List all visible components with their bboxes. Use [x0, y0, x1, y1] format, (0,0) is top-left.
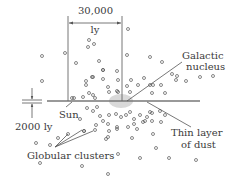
globular-cluster-dot	[171, 73, 174, 76]
arrow-up-icon	[31, 104, 33, 108]
globular-cluster-dot	[133, 118, 136, 121]
globular-cluster-dot	[98, 60, 101, 63]
globular-cluster-dot	[96, 106, 99, 109]
globular-cluster-dot	[160, 121, 163, 124]
globular-cluster-dot	[133, 123, 136, 126]
globular-cluster-dot	[95, 124, 98, 127]
globular-cluster-dot	[85, 80, 88, 83]
globular-cluster-dot	[93, 43, 96, 46]
globular-cluster-dot	[86, 107, 89, 110]
globular-pointer-line	[55, 131, 93, 147]
globular-cluster-dot	[149, 56, 152, 59]
globular-cluster-dot	[99, 115, 102, 118]
globular-cluster-dot	[41, 55, 44, 58]
globular-cluster-dot	[185, 80, 188, 83]
globular-cluster-dot	[57, 137, 60, 140]
globular-cluster-dot	[161, 61, 164, 64]
globular-cluster-dot	[151, 92, 154, 95]
globular-cluster-dot	[102, 69, 105, 72]
globular-cluster-dot	[83, 130, 86, 133]
globular-cluster-dot	[129, 91, 132, 94]
globular-cluster-dot	[82, 96, 85, 99]
globular-cluster-dot	[94, 97, 97, 100]
globular-cluster-dot	[116, 70, 119, 73]
globular-cluster-dot	[125, 114, 128, 117]
dust-label-line2: of dust	[181, 139, 216, 150]
globular-cluster-dot	[107, 86, 110, 89]
globular-cluster-dot	[117, 79, 120, 82]
globular-cluster-dot	[151, 120, 154, 123]
globular-cluster-dot	[143, 77, 146, 80]
globular-cluster-dot	[199, 76, 202, 79]
globular-cluster-dot	[155, 147, 158, 150]
globular-cluster-dot	[164, 114, 167, 117]
globular-cluster-dot	[116, 128, 119, 131]
globular-cluster-dot	[107, 123, 110, 126]
globular-cluster-dot	[195, 159, 198, 162]
globular-cluster-dot	[164, 92, 167, 95]
globular-cluster-dot	[168, 157, 171, 160]
globular-cluster-dot	[160, 84, 163, 87]
globular-cluster-dot	[212, 75, 215, 78]
globular-cluster-dot	[131, 137, 134, 140]
globular-cluster-dot	[115, 113, 118, 116]
globular-cluster-dot	[117, 153, 120, 156]
globular-cluster-dot	[105, 138, 108, 141]
globular-cluster-dot	[88, 39, 91, 42]
globular-cluster-dot	[120, 116, 123, 119]
globular-cluster-dot	[127, 126, 130, 129]
globular-cluster-dot	[87, 46, 90, 49]
globular-cluster-dot	[146, 116, 149, 119]
globular-cluster-dot	[175, 79, 178, 82]
globular-cluster-dot	[85, 84, 88, 87]
globular-cluster-dot	[127, 28, 130, 31]
globular-cluster-dot	[75, 62, 78, 65]
globular-cluster-dot	[102, 78, 105, 81]
globular-cluster-dot	[39, 162, 42, 165]
width-unit-label: ly	[88, 24, 102, 35]
galactic-nucleus-label-line2: nucleus	[186, 61, 225, 72]
sun-label: Sun	[59, 109, 79, 120]
globular-cluster-dot	[126, 54, 129, 57]
dust-pointer-line	[147, 102, 191, 127]
globular-cluster-dot	[139, 157, 142, 160]
globular-cluster-dot	[102, 120, 105, 123]
globular-cluster-dot	[88, 92, 91, 95]
arrow-left-icon	[69, 22, 73, 25]
globular-cluster-dot	[137, 84, 140, 87]
thickness-label: 2000 ly	[15, 121, 52, 132]
globular-cluster-dot	[176, 75, 179, 78]
globular-cluster-dot	[92, 94, 95, 97]
globular-cluster-dot	[139, 114, 142, 117]
globular-cluster-dot	[136, 128, 139, 131]
globular-cluster-dot	[108, 130, 111, 133]
globular-cluster-dot	[73, 97, 76, 100]
globular-cluster-dot	[126, 85, 129, 88]
globular-clusters-label: Globular clusters	[27, 150, 114, 161]
globular-cluster-dot	[92, 110, 95, 113]
arrow-right-icon	[117, 22, 121, 25]
globular-cluster-dot	[129, 111, 132, 114]
nucleus-pointer-line	[127, 62, 182, 101]
globular-cluster-dot	[49, 144, 52, 147]
arrow-down-icon	[31, 96, 33, 100]
globular-cluster-dot	[159, 110, 162, 113]
dust-label-line1: Thin layer	[171, 127, 222, 138]
globular-cluster-dot	[94, 129, 97, 132]
globular-cluster-dot	[108, 91, 111, 94]
sun-pointer-line	[66, 102, 72, 107]
globular-cluster-dot	[81, 165, 84, 168]
width-value-label: 30,000	[78, 5, 112, 16]
galactic-nucleus-label-line1: Galactic	[182, 50, 224, 61]
globular-cluster-dot	[64, 52, 67, 55]
globular-cluster-dot	[35, 142, 38, 145]
globular-cluster-dot	[152, 133, 155, 136]
globular-cluster-dot	[130, 79, 133, 82]
globular-cluster-dot	[108, 114, 111, 117]
globular-cluster-dot	[41, 80, 44, 83]
globular-cluster-dot	[107, 173, 110, 176]
globular-cluster-dot	[152, 84, 155, 87]
